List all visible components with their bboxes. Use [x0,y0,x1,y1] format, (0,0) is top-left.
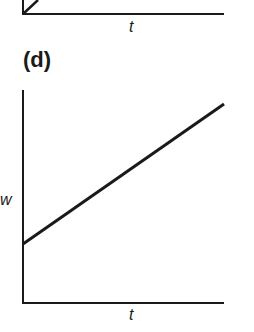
panel-d-y-axis-label: w [0,192,12,208]
panel-d-data-line [23,104,224,244]
panel-c-x-axis-label: t [129,19,133,35]
panel-c-data-line [23,0,38,14]
panel-d-plot [22,90,224,304]
panel-c-partial [22,0,224,14]
panel-d-title: (d) [23,47,51,73]
panel-d-x-axis-label: t [129,307,133,323]
